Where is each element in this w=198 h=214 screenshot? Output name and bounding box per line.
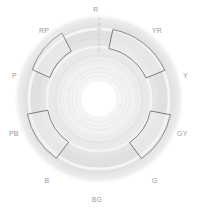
- hue-label-yr: YR: [152, 27, 162, 34]
- hue-label-r: R: [93, 6, 98, 13]
- hue-label-g: G: [152, 177, 158, 184]
- hue-label-y: Y: [183, 72, 188, 79]
- radial-tick-6: 6: [98, 38, 100, 41]
- hue-label-rp: RP: [39, 27, 49, 34]
- radial-tick-8: 8: [98, 33, 100, 36]
- hue-label-p: P: [12, 72, 17, 79]
- hue-label-pb: PB: [9, 130, 19, 137]
- radial-tick-12: 12: [97, 23, 101, 26]
- radial-tick-4: 4: [98, 43, 100, 46]
- munsell-hue-circle-chart: R YR Y GY G BG B PB P RP 14 12 10 8 6 4 …: [0, 0, 198, 214]
- radial-tick-10: 10: [97, 28, 101, 31]
- hue-label-gy: GY: [177, 130, 188, 137]
- hue-label-b: B: [45, 177, 50, 184]
- radial-tick-14: 14: [97, 18, 101, 21]
- radial-tick-2: 2: [98, 48, 100, 51]
- hue-label-bg: BG: [92, 196, 103, 203]
- center-hole: [81, 81, 117, 117]
